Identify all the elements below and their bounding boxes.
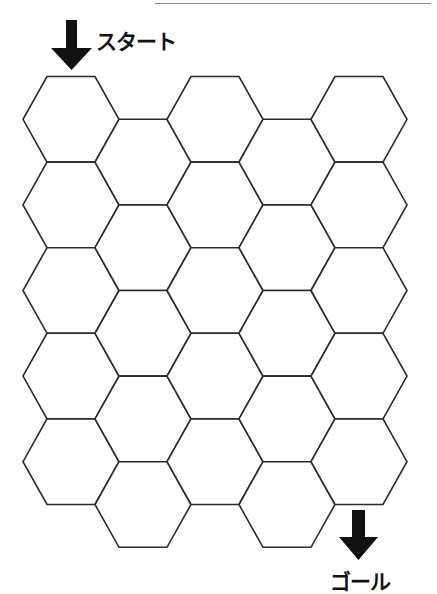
goal-arrow-icon: [339, 510, 378, 560]
goal-label: ゴール: [330, 565, 390, 594]
start-arrow-icon: [51, 20, 92, 70]
hex-maze-board: [0, 0, 437, 594]
hex-grid: [23, 77, 407, 548]
start-label: スタート: [96, 25, 176, 55]
